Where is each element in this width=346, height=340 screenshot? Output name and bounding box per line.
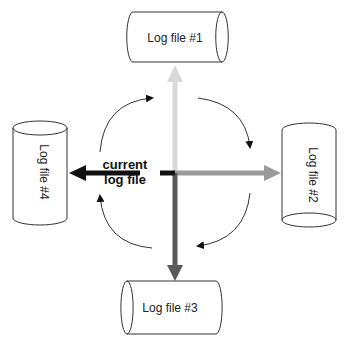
current-log-file-label: current log file	[103, 157, 148, 187]
log-file-4-label: Log file #4	[37, 144, 51, 200]
arrow-to-log-file-3	[167, 173, 183, 281]
log-file-3-cylinder: Log file #3	[121, 281, 222, 334]
log-rotation-diagram: Log file #1 Log file #2 Log file #3 Log …	[0, 0, 346, 340]
arrow-to-log-file-2	[175, 165, 281, 181]
log-file-4-cylinder: Log file #4	[13, 121, 67, 225]
log-file-2-label: Log file #2	[306, 147, 320, 203]
log-file-3-label: Log file #3	[142, 301, 198, 315]
arrow-to-log-file-1	[167, 65, 183, 173]
rotation-arrow-top-left	[100, 98, 152, 152]
current-label-line1: current	[103, 157, 148, 172]
log-file-1-label: Log file #1	[147, 31, 203, 45]
current-label-line2: log file	[104, 172, 146, 187]
log-file-2-cylinder: Log file #2	[282, 123, 336, 227]
rotation-arrow-bottom-left	[100, 196, 152, 248]
rotation-arrow-bottom-right	[198, 193, 250, 246]
rotation-arrow-top-right	[198, 98, 250, 147]
log-file-1-cylinder: Log file #1	[127, 12, 229, 62]
